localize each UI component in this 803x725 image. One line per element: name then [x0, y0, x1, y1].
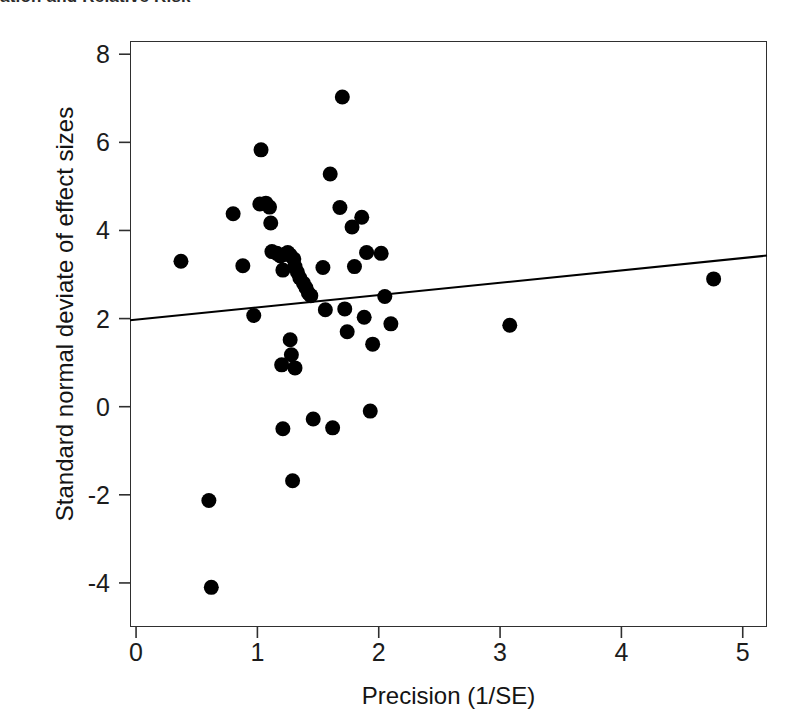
x-tick-label: 2: [349, 638, 409, 667]
plot-frame: [130, 41, 767, 627]
x-tick-label: 1: [227, 638, 287, 667]
figure-page: ation and Relative Risk -4-202468 012345…: [0, 0, 803, 725]
x-tick-label: 4: [591, 638, 651, 667]
x-axis-title: Precision (1/SE): [130, 682, 767, 710]
x-axis-tick-labels: 012345: [0, 638, 803, 672]
x-tick-label: 0: [106, 638, 166, 667]
x-tick-label: 3: [470, 638, 530, 667]
x-tick-label: 5: [713, 638, 773, 667]
y-axis-title: Standard normal deviate of effect sizes: [51, 34, 79, 594]
